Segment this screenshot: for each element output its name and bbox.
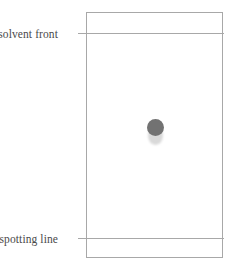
sample-spot: [147, 119, 164, 146]
spotting-line: spotting line: [78, 238, 224, 239]
tlc-plate-diagram: solvent front spotting line: [0, 0, 236, 266]
spotting-line-label: spotting line: [0, 234, 66, 246]
solvent-front-label: solvent front: [0, 29, 66, 41]
sample-spot-core: [147, 119, 164, 136]
solvent-front-line: solvent front: [78, 33, 224, 34]
